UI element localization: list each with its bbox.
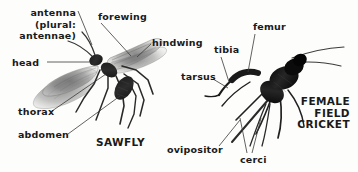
leader-ovipositor bbox=[219, 120, 240, 146]
cricket-hind-tarsus bbox=[205, 95, 219, 97]
label-cerci: cerci bbox=[240, 154, 267, 166]
label-hindwing: hindwing bbox=[152, 37, 203, 49]
label-antenna: antenna (plural: antennae) bbox=[6, 7, 76, 42]
caption-female-field-cricket: FEMALE FIELD CRICKET bbox=[290, 96, 350, 131]
cricket-leg bbox=[236, 92, 264, 120]
caption-sawfly: SAWFLY bbox=[96, 137, 145, 149]
label-tarsus: tarsus bbox=[181, 71, 216, 83]
leader-tibia bbox=[221, 57, 229, 82]
label-thorax: thorax bbox=[18, 106, 54, 118]
label-forewing: forewing bbox=[98, 11, 147, 23]
cricket-hind-tibia bbox=[219, 80, 232, 95]
leader-cerci-a bbox=[240, 118, 247, 153]
anatomy-figure-page: antenna (plural: antennae) forewing hind… bbox=[0, 0, 358, 172]
leader-antenna bbox=[78, 11, 92, 45]
leader-abdomen bbox=[68, 96, 120, 134]
sawfly-antenna bbox=[68, 41, 93, 57]
label-abdomen: abdomen bbox=[18, 129, 69, 141]
label-tibia: tibia bbox=[214, 44, 239, 56]
label-femur: femur bbox=[253, 21, 286, 33]
leader-forewing bbox=[101, 23, 131, 56]
label-ovipositor: ovipositor bbox=[167, 144, 223, 156]
sawfly-abdomen bbox=[110, 73, 137, 104]
cricket-hind-femur bbox=[232, 72, 258, 80]
label-head: head bbox=[12, 57, 39, 69]
leader-femur bbox=[248, 34, 255, 72]
